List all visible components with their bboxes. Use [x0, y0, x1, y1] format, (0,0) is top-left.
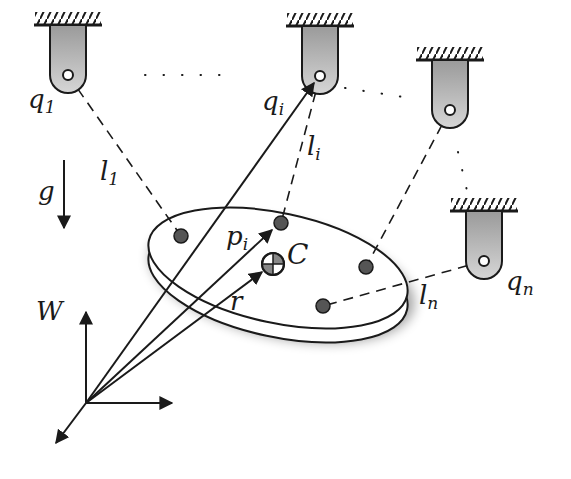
- label-g: g: [38, 176, 55, 206]
- cable-l1: [68, 75, 181, 236]
- anchor-qi: [286, 13, 354, 94]
- cable-robot-diagram: q1 qi qn l1 li ln pi C r g W: [0, 0, 571, 479]
- anchor-q1: [34, 12, 102, 93]
- cable-l3: [366, 110, 450, 267]
- axis-y: [56, 403, 86, 443]
- label-ln: ln: [419, 280, 438, 313]
- attachment-point-3: [359, 260, 373, 274]
- attachment-point-1: [174, 229, 188, 243]
- label-qn: qn: [506, 266, 534, 299]
- label-li: li: [307, 131, 321, 164]
- label-qi: qi: [262, 86, 284, 119]
- label-W: W: [36, 296, 65, 326]
- label-C: C: [287, 238, 308, 271]
- anchor-q3: [416, 47, 484, 128]
- label-q1: q1: [28, 84, 55, 117]
- center-of-mass-icon: [262, 253, 284, 275]
- label-r: r: [230, 286, 244, 316]
- attachment-point-i: [274, 216, 288, 230]
- attachment-point-n: [316, 299, 330, 313]
- label-l1: l1: [100, 156, 119, 189]
